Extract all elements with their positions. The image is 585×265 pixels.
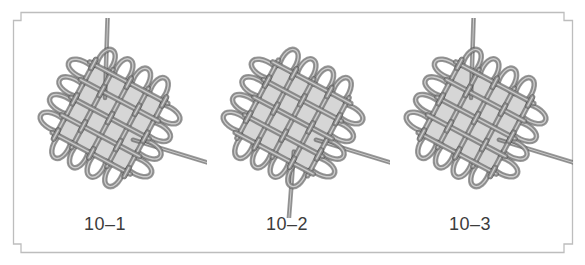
caption-step-3: 10–3	[430, 213, 510, 235]
caption-step-1: 10–1	[65, 213, 145, 235]
knot-panel-2	[205, 18, 390, 218]
caption-step-2: 10–2	[247, 213, 327, 235]
knot-illustration	[209, 35, 390, 218]
knot-step-2-photo	[205, 18, 390, 218]
knot-panel-1	[22, 18, 207, 218]
knot-illustration	[26, 18, 207, 202]
knot-panel-3	[388, 18, 573, 218]
knot-step-1-photo	[22, 18, 207, 218]
knot-step-3-photo	[388, 18, 573, 218]
knot-illustration	[392, 18, 573, 202]
